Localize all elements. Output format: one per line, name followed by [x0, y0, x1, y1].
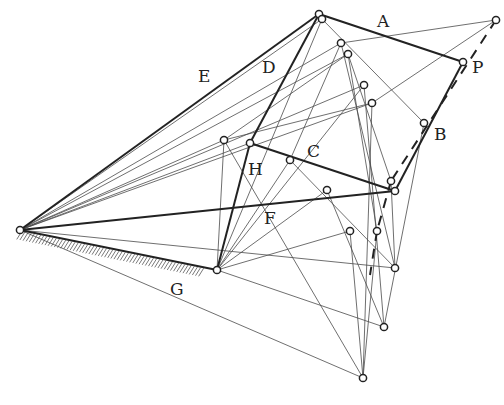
- joint-node-icon: [246, 139, 253, 146]
- mechanism-link: [250, 14, 319, 143]
- construction-line: [20, 230, 395, 268]
- construction-line: [20, 140, 224, 230]
- construction-line: [348, 54, 377, 231]
- joint-node-icon: [359, 374, 366, 381]
- construction-line: [322, 19, 424, 123]
- joint-node-icon: [344, 50, 351, 57]
- label-e: E: [198, 66, 210, 86]
- joint-node-icon: [492, 16, 499, 23]
- label-f: F: [264, 208, 276, 228]
- joint-node-icon: [380, 323, 387, 330]
- joint-node-icon: [368, 99, 375, 106]
- joint-node-icon: [360, 81, 367, 88]
- label-c: C: [307, 141, 320, 161]
- construction-line: [217, 270, 384, 327]
- construction-line: [327, 190, 384, 327]
- joint-node-icon: [323, 186, 330, 193]
- joint-node-icon: [337, 39, 344, 46]
- construction-line: [384, 123, 424, 327]
- joint-node-icon: [16, 226, 23, 233]
- joint-node-icon: [220, 136, 227, 143]
- linkage-diagram-canvas: APDEBCHFG: [0, 0, 504, 405]
- mechanism-link: [20, 230, 217, 270]
- mechanism-links: [20, 14, 463, 270]
- construction-line: [20, 54, 348, 230]
- construction-line: [224, 140, 363, 378]
- joint-node-icon: [420, 119, 427, 126]
- label-a: A: [376, 11, 390, 31]
- joint-node-icon: [213, 266, 220, 273]
- label-p: P: [472, 57, 483, 77]
- construction-line: [364, 85, 384, 327]
- joint-node-icon: [286, 156, 293, 163]
- mechanism-diagram: APDEBCHFG: [0, 0, 504, 405]
- joint-node-icon: [346, 227, 353, 234]
- construction-line: [20, 230, 363, 378]
- construction-line: [363, 103, 372, 378]
- ground-hatching: [17, 231, 204, 276]
- joint-node-icon: [459, 58, 466, 65]
- construction-line: [224, 54, 348, 140]
- construction-line: [290, 160, 395, 268]
- label-h: H: [248, 159, 263, 179]
- joint-node-icon: [373, 227, 380, 234]
- construction-line: [217, 231, 350, 270]
- label-b: B: [434, 124, 447, 144]
- construction-lines: [20, 19, 496, 378]
- joint-node-icon: [391, 187, 398, 194]
- mechanism-link: [250, 143, 395, 191]
- construction-line: [341, 20, 496, 43]
- joint-node-icon: [318, 15, 325, 22]
- construction-line: [20, 143, 250, 230]
- label-d: D: [262, 57, 276, 77]
- link-labels: APDEBCHFG: [170, 11, 483, 299]
- construction-line: [350, 231, 363, 378]
- mechanism-link: [395, 62, 463, 191]
- joint-node-icon: [391, 264, 398, 271]
- label-g: G: [170, 279, 184, 299]
- joint-node-icon: [387, 177, 394, 184]
